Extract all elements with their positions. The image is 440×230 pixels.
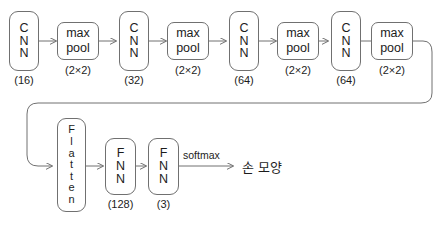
fnn-block-2-letter-3: N	[159, 173, 168, 186]
cnn-block-1-letter-3: N	[19, 47, 28, 60]
cnn-block-3: C N N	[229, 11, 259, 71]
maxpool-block-1: max pool	[57, 22, 99, 60]
flatten-letter-7: n	[68, 194, 74, 206]
cnn-block-4-letter-1: C	[341, 22, 350, 35]
maxpool-block-2: max pool	[167, 22, 209, 60]
fnn-block-1: F N N	[105, 138, 136, 195]
fnn-block-2-label: F N N	[159, 147, 168, 185]
maxpool-block-2-caption: (2×2)	[167, 64, 209, 76]
fnn-block-2-caption: (3)	[143, 198, 184, 210]
cnn-block-4: C N N	[331, 11, 361, 71]
cnn-block-4-letter-3: N	[341, 47, 350, 60]
cnn-block-2-letter-3: N	[129, 47, 138, 60]
maxpool-block-4-label: max pool	[380, 26, 404, 56]
cnn-block-1-label: C N N	[19, 22, 28, 60]
fnn-block-2-letter-2: N	[159, 160, 168, 173]
softmax-edge-label: softmax	[183, 149, 220, 161]
cnn-block-2: C N N	[119, 11, 149, 71]
maxpool-block-3-line-2: pool	[286, 41, 310, 56]
maxpool-block-2-label: max pool	[176, 26, 200, 56]
cnn-block-1-letter-1: C	[19, 22, 28, 35]
maxpool-block-4: max pool	[371, 22, 413, 60]
cnn-block-2-label: C N N	[129, 22, 138, 60]
maxpool-block-3-caption: (2×2)	[277, 64, 319, 76]
cnn-block-3-label: C N N	[239, 22, 248, 60]
flatten-letter-2: l	[70, 136, 72, 148]
cnn-block-3-caption: (64)	[229, 74, 259, 86]
maxpool-block-1-caption: (2×2)	[57, 64, 99, 76]
maxpool-block-4-line-1: max	[380, 26, 404, 41]
fnn-block-1-caption: (128)	[100, 198, 141, 210]
maxpool-block-3-label: max pool	[286, 26, 310, 56]
cnn-architecture-diagram: C N N (16) max pool (2×2) C N N (32) max…	[0, 0, 440, 230]
fnn-block-2: F N N	[148, 138, 179, 195]
fnn-block-1-label: F N N	[116, 147, 125, 185]
output-label: 손 모양	[242, 157, 282, 176]
maxpool-block-3-line-1: max	[286, 26, 310, 41]
fnn-block-1-letter-3: N	[116, 173, 125, 186]
maxpool-block-2-line-1: max	[176, 26, 200, 41]
maxpool-block-4-caption: (2×2)	[371, 64, 413, 76]
maxpool-block-1-line-2: pool	[66, 41, 90, 56]
flatten-block-label: F l a t t e n	[68, 124, 75, 206]
cnn-block-3-letter-1: C	[239, 22, 248, 35]
flatten-block: F l a t t e n	[57, 118, 86, 212]
maxpool-block-3: max pool	[277, 22, 319, 60]
maxpool-block-2-line-2: pool	[176, 41, 200, 56]
maxpool-block-4-line-2: pool	[380, 41, 404, 56]
cnn-block-1-caption: (16)	[9, 74, 39, 86]
cnn-block-1: C N N	[9, 11, 39, 71]
maxpool-block-1-line-1: max	[66, 26, 90, 41]
cnn-block-4-caption: (64)	[331, 74, 361, 86]
maxpool-block-1-label: max pool	[66, 26, 90, 56]
cnn-block-2-caption: (32)	[119, 74, 149, 86]
cnn-block-3-letter-3: N	[239, 47, 248, 60]
cnn-block-4-label: C N N	[341, 22, 350, 60]
fnn-block-1-letter-2: N	[116, 160, 125, 173]
cnn-block-2-letter-1: C	[129, 22, 138, 35]
